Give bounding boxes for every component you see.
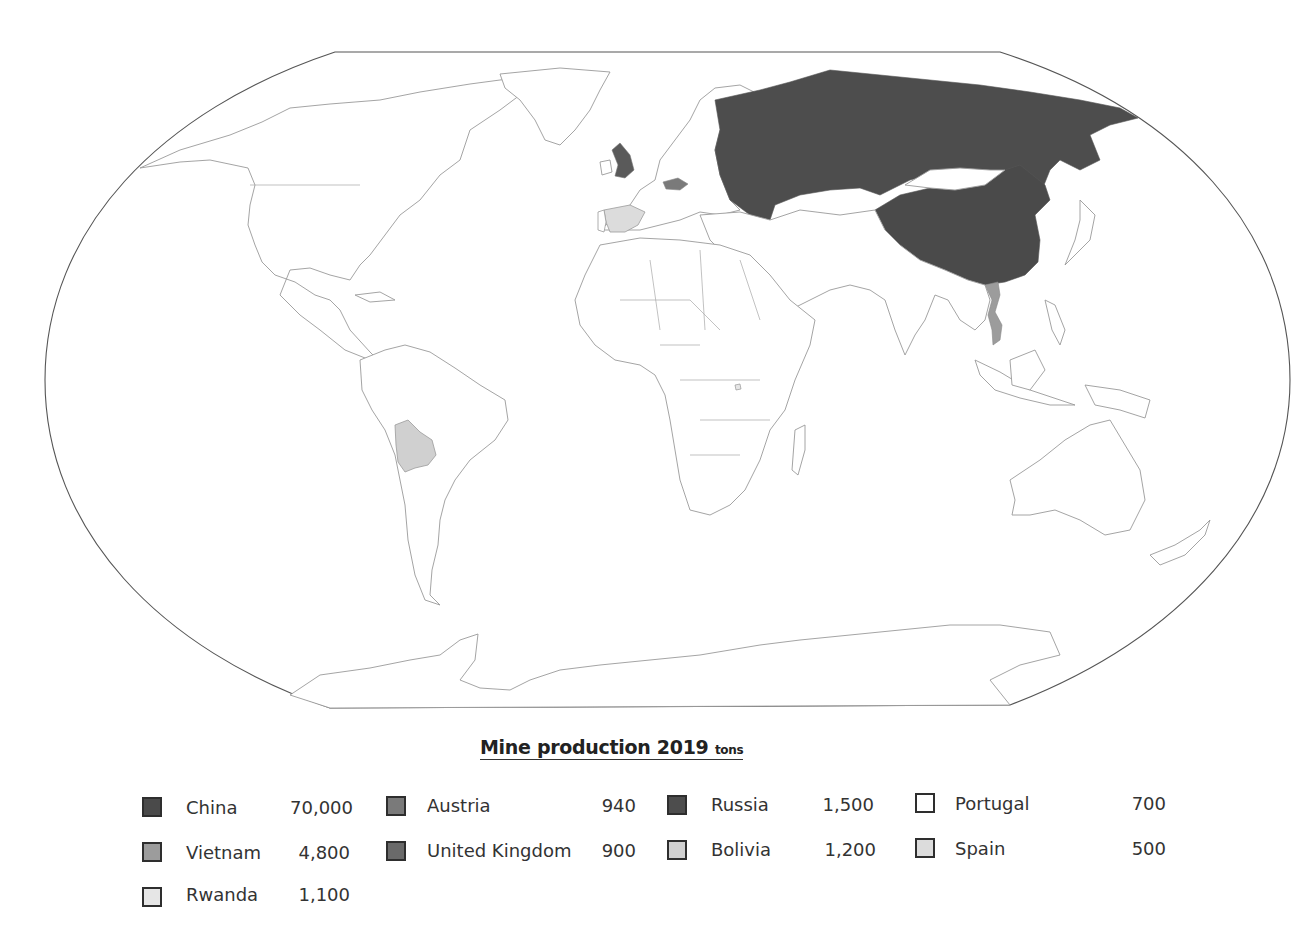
legend-label-russia: Russia (711, 794, 769, 815)
swatch-bolivia (667, 840, 687, 860)
legend-value-vietnam: 4,800 (290, 842, 350, 863)
title-unit: tons (715, 743, 743, 757)
new-zealand (1150, 520, 1210, 565)
legend-label-china: China (186, 797, 237, 818)
legend-label-bolivia: Bolivia (711, 839, 771, 860)
legend-label-vietnam: Vietnam (186, 842, 261, 863)
map-title: Mine production 2019 tons (480, 736, 743, 760)
swatch-portugal (915, 793, 935, 813)
swatch-austria (386, 796, 406, 816)
madagascar (792, 425, 805, 475)
greenland (500, 68, 610, 145)
swatch-spain (915, 838, 935, 858)
swatch-vietnam (142, 842, 162, 862)
portugal (598, 210, 606, 232)
swatch-united-kingdom (386, 841, 406, 861)
borneo (1010, 350, 1045, 390)
australia (1010, 420, 1145, 535)
united-kingdom (612, 143, 634, 178)
legend-value-portugal: 700 (1110, 793, 1166, 814)
world-map (0, 0, 1304, 720)
legend-label-united-kingdom: United Kingdom (427, 840, 571, 861)
swatch-rwanda (142, 887, 162, 907)
antarctica (290, 625, 1060, 708)
legend-value-russia: 1,500 (810, 794, 874, 815)
japan (1065, 200, 1095, 265)
legend-label-austria: Austria (427, 795, 491, 816)
new-guinea (1085, 385, 1150, 418)
philippines (1045, 300, 1065, 345)
legend-value-spain: 500 (1110, 838, 1166, 859)
caribbean-cuba (355, 292, 395, 302)
swatch-china (142, 797, 162, 817)
legend-label-portugal: Portugal (955, 793, 1030, 814)
legend-label-rwanda: Rwanda (186, 884, 258, 905)
legend-value-china: 70,000 (290, 797, 350, 818)
north-america (140, 76, 540, 382)
rwanda (735, 384, 741, 390)
ireland (600, 160, 612, 175)
title-main: Mine production 2019 (480, 736, 709, 758)
south-america (360, 345, 508, 605)
legend-value-rwanda: 1,100 (290, 884, 350, 905)
legend-label-spain: Spain (955, 838, 1005, 859)
swatch-russia (667, 795, 687, 815)
legend-value-bolivia: 1,200 (812, 839, 876, 860)
legend-value-austria: 940 (580, 795, 636, 816)
legend-value-united-kingdom: 900 (580, 840, 636, 861)
